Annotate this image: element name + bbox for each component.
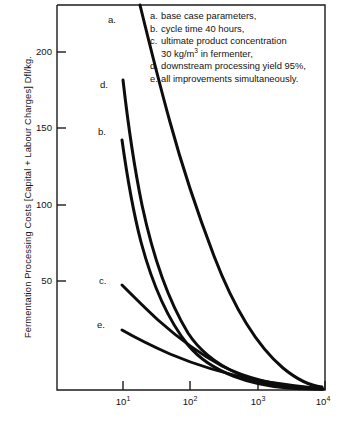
legend-item-e: e. all improvements simultaneously. (150, 73, 330, 86)
y-tick-label-50: 50 (14, 275, 52, 286)
legend-text-c: ultimate product concentration (161, 35, 330, 48)
x-tick-mantissa: 10 (251, 396, 262, 407)
y-tick-label-200: 200 (14, 46, 52, 57)
x-tick-exponent: 2 (193, 395, 197, 402)
curve-label-a: a. (108, 14, 116, 25)
x-tick-mantissa: 10 (116, 396, 127, 407)
y-tick-label-150: 150 (14, 122, 52, 133)
x-tick-label-1e4: 104 (303, 396, 340, 407)
legend-text-d: downstream processing yield 95%, (161, 60, 330, 73)
x-tick-label-1e2: 102 (170, 396, 210, 407)
legend-key-d: d. (150, 60, 161, 73)
legend-item-a: a. base case parameters, (150, 10, 330, 23)
curve-b (122, 140, 322, 389)
legend-key-c: c. (150, 35, 161, 48)
legend-key-e: e. (150, 73, 161, 86)
curve-label-b: b. (98, 126, 106, 137)
curve-label-d: d. (100, 79, 108, 90)
figure-container: Fermentation Processing Costs [Capital +… (0, 0, 340, 427)
legend: a. base case parameters, b. cycle time 4… (150, 10, 330, 86)
legend-item-b: b. cycle time 40 hours, (150, 23, 330, 36)
curve-label-e: e. (97, 319, 105, 330)
curve-d (123, 80, 322, 388)
legend-text-e: all improvements simultaneously. (161, 73, 330, 86)
x-tick-exponent: 4 (326, 395, 330, 402)
x-tick-exponent: 1 (126, 395, 130, 402)
legend-c-concentration: 30 kg/m (161, 48, 194, 59)
legend-c-suffix: in fermenter, (198, 48, 253, 59)
x-tick-mantissa: 10 (183, 396, 194, 407)
legend-item-c: c. ultimate product concentration (150, 35, 330, 48)
legend-text-c-line2: 30 kg/m3 in fermenter, (150, 48, 330, 61)
curve-label-c: c. (99, 275, 106, 286)
x-tick-label-1e1: 101 (103, 396, 143, 407)
y-tick-label-100: 100 (14, 199, 52, 210)
y-axis-ticks (57, 52, 66, 281)
legend-text-b: cycle time 40 hours, (161, 23, 330, 36)
legend-key-b: b. (150, 23, 161, 36)
legend-item-d: d. downstream processing yield 95%, (150, 60, 330, 73)
legend-text-a: base case parameters, (161, 10, 330, 23)
x-tick-exponent: 3 (261, 395, 265, 402)
legend-key-a: a. (150, 10, 161, 23)
curve-e (122, 330, 322, 389)
x-tick-label-1e3: 103 (238, 396, 278, 407)
x-tick-mantissa: 10 (316, 396, 327, 407)
